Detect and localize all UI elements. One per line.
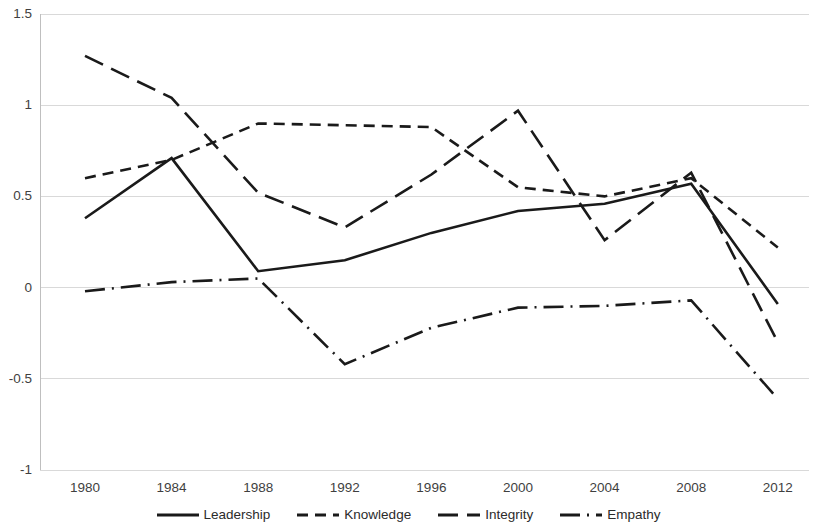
x-tick-label: 1980: [55, 481, 115, 495]
x-tick-label: 2012: [748, 481, 808, 495]
y-tick-label: 1.5: [2, 7, 32, 21]
line-chart: 1.510.50-0.5-1 1980198419881992199620002…: [0, 0, 816, 532]
y-tick-label: 1: [2, 98, 32, 112]
legend-item-knowledge[interactable]: Knowledge: [296, 508, 411, 522]
series-lines: [85, 56, 778, 399]
legend-label: Leadership: [204, 508, 271, 522]
legend-label: Knowledge: [344, 508, 411, 522]
y-tick-label: -0.5: [2, 372, 32, 386]
plot-area: [0, 0, 816, 532]
x-tick-label: 1984: [142, 481, 202, 495]
y-tick-label: -1: [2, 463, 32, 477]
dashed-line-swatch: [296, 508, 340, 522]
x-tick-label: 1992: [315, 481, 375, 495]
x-tick-label: 2004: [575, 481, 635, 495]
x-tick-label: 2000: [488, 481, 548, 495]
x-tick-label: 1988: [228, 481, 288, 495]
legend-item-empathy[interactable]: Empathy: [559, 508, 660, 522]
dash-dot-line-swatch: [559, 508, 603, 522]
x-tick-label: 2008: [661, 481, 721, 495]
x-tick-label: 1996: [401, 481, 461, 495]
series-line-integrity: [85, 56, 778, 342]
legend-item-integrity[interactable]: Integrity: [437, 508, 533, 522]
gridlines: [40, 14, 809, 470]
legend-label: Integrity: [485, 508, 533, 522]
series-line-empathy: [85, 278, 778, 398]
chart-legend: LeadershipKnowledgeIntegrityEmpathy: [0, 508, 816, 522]
y-tick-label: 0: [2, 281, 32, 295]
legend-label: Empathy: [607, 508, 660, 522]
series-line-leadership: [85, 158, 778, 304]
solid-line-swatch: [156, 508, 200, 522]
legend-item-leadership[interactable]: Leadership: [156, 508, 271, 522]
y-tick-label: 0.5: [2, 189, 32, 203]
dash-dot-line-swatch: [437, 508, 481, 522]
